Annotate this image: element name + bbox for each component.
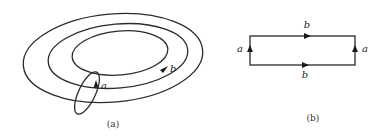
meridian-arrow-icon: [94, 80, 99, 88]
longitude-label-b: b: [170, 63, 176, 74]
panel-b: b b a a (b): [237, 19, 368, 123]
caption-a: (a): [107, 119, 119, 129]
panel-a: a b (a): [20, 6, 207, 129]
longitude-arrow-icon: [160, 66, 168, 73]
bottom-edge-arrow-icon: [302, 62, 309, 68]
torus-figure: a b (a) b b a a (b): [0, 0, 385, 136]
right-edge-label-a: a: [362, 43, 368, 54]
right-edge-arrow-icon: [352, 45, 358, 52]
torus-middle-ellipse: [45, 18, 190, 94]
torus-outer-ellipse: [20, 6, 207, 109]
meridian-label-a: a: [101, 80, 107, 91]
meridian-loop-a: [70, 69, 105, 118]
top-edge-arrow-icon: [304, 33, 311, 39]
bottom-edge-label-b: b: [302, 69, 308, 80]
left-edge-label-a: a: [237, 43, 243, 54]
top-edge-label-b: b: [304, 19, 310, 30]
left-edge-arrow-icon: [247, 45, 253, 52]
caption-b: (b): [307, 113, 320, 123]
torus-inner-ellipse: [70, 27, 169, 79]
identification-rectangle: [250, 36, 355, 65]
